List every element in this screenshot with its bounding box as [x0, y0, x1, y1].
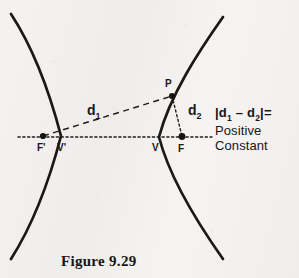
right-focus-label: F [178, 144, 184, 154]
distance-d1-base: d [87, 102, 96, 118]
equation-value-line-2: Constant [215, 138, 272, 153]
point-p-dot [169, 93, 175, 99]
equation-value-line-1: Positive [215, 123, 272, 138]
distance-d2-label: d2 [188, 103, 202, 121]
distance-d1-label: d1 [87, 103, 101, 121]
distance-d2-subscript: 2 [197, 111, 202, 121]
distance-d2-base: d [188, 102, 197, 118]
hyperbola-right-branch [159, 17, 223, 259]
distance-d2-line [172, 96, 182, 136]
left-focus-label: F' [37, 143, 46, 153]
right-focus-dot [179, 133, 186, 140]
right-vertex-label: V [152, 143, 159, 153]
equation-block: |d1 – d2|= Positive Constant [215, 105, 272, 153]
equation-absolute-difference: |d1 – d2|= [215, 105, 272, 123]
hyperbola-figure: F' V' V F P d1 d2 |d1 – d2|= Positive Co… [0, 0, 299, 278]
equation-equals-sign: = [264, 105, 272, 120]
figure-caption: Figure 9.29 [61, 253, 137, 270]
equation-term-2: d [247, 105, 255, 120]
left-vertex-label: V' [57, 143, 66, 153]
distance-d1-subscript: 1 [96, 111, 101, 121]
distance-d1-line [43, 96, 172, 136]
equation-term-1: d [219, 105, 227, 120]
left-focus-dot [40, 133, 46, 139]
equation-minus-sign: – [232, 105, 247, 120]
point-p-label: P [165, 79, 172, 89]
